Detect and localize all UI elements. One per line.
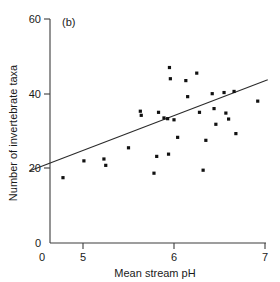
data-point — [140, 114, 143, 117]
x-tick-label-7: 7 — [262, 251, 268, 263]
regression-line — [29, 80, 267, 171]
x-tick-label-6: 6 — [171, 251, 177, 263]
data-point — [155, 155, 158, 158]
data-point — [127, 146, 130, 149]
data-point — [202, 169, 205, 172]
data-point — [211, 92, 214, 95]
x-axis-title: Mean stream pH — [114, 267, 195, 279]
data-point — [198, 111, 201, 114]
x-tick-label-0: 0 — [39, 251, 45, 263]
data-point — [176, 136, 179, 139]
x-tick-label-5: 5 — [80, 251, 86, 263]
data-point — [162, 116, 165, 119]
data-point — [222, 91, 225, 94]
data-point — [166, 117, 169, 120]
data-point — [256, 100, 259, 103]
data-point — [232, 90, 235, 93]
x-axis-ticks — [83, 243, 265, 249]
data-point — [234, 132, 237, 135]
data-point — [82, 159, 85, 162]
y-tick-label-60: 60 — [29, 13, 41, 25]
data-point — [168, 66, 171, 69]
data-point — [102, 157, 105, 160]
data-point — [152, 172, 155, 175]
scatter-plot-figure: 60 40 20 0 0 5 6 7 (b) Mean stream pH Nu… — [0, 0, 280, 282]
data-point — [224, 111, 227, 114]
y-tick-label-40: 40 — [29, 88, 41, 100]
data-point — [169, 77, 172, 80]
data-point — [212, 107, 215, 110]
data-point — [214, 123, 217, 126]
data-point — [186, 95, 189, 98]
data-points-group — [61, 66, 259, 179]
data-point — [139, 110, 142, 113]
y-axis-title: Number of invertebrate taxa — [7, 64, 19, 201]
chart-svg: 60 40 20 0 0 5 6 7 (b) Mean stream pH Nu… — [0, 0, 280, 282]
data-point — [172, 118, 175, 121]
data-point — [61, 176, 64, 179]
y-axis-ticks — [44, 19, 50, 168]
data-point — [204, 139, 207, 142]
y-tick-label-0: 0 — [35, 237, 41, 249]
data-point — [184, 79, 187, 82]
data-point — [227, 117, 230, 120]
data-point — [157, 111, 160, 114]
data-point — [104, 164, 107, 167]
data-point — [167, 153, 170, 156]
y-tick-label-20: 20 — [29, 162, 41, 174]
data-point — [195, 72, 198, 75]
panel-label: (b) — [62, 16, 75, 28]
